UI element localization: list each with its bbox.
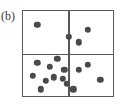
data-point — [47, 64, 53, 70]
data-point — [50, 74, 56, 80]
data-point — [70, 86, 76, 92]
data-point — [76, 39, 82, 45]
data-point — [38, 86, 44, 92]
data-point — [85, 26, 91, 32]
panel-label: (b) — [1, 8, 21, 24]
data-point — [85, 61, 91, 67]
data-point — [42, 77, 48, 83]
data-point — [34, 21, 40, 27]
figure-root: (b) — [0, 0, 124, 106]
data-point — [61, 66, 67, 72]
plot-frame — [22, 10, 114, 97]
data-point — [30, 72, 36, 78]
quadrant-divider-horizontal — [23, 54, 113, 56]
data-point — [76, 66, 82, 72]
data-point — [34, 60, 40, 66]
plot-area — [23, 11, 113, 96]
data-point — [54, 55, 60, 61]
data-point — [66, 33, 72, 39]
data-point — [97, 77, 103, 83]
